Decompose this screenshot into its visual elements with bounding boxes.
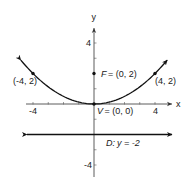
vertex-label: V= (0, 0) bbox=[97, 106, 133, 116]
focus-label-value: = (0, 2) bbox=[108, 69, 137, 79]
y-tick-label: 4 bbox=[86, 38, 91, 48]
vertex-label-value: = (0, 0) bbox=[105, 106, 134, 116]
directrix-label-letter: D: bbox=[106, 138, 115, 148]
y-axis-label: y bbox=[92, 12, 97, 22]
right-point-label: (4, 2) bbox=[155, 76, 176, 86]
focus-label: F= (0, 2) bbox=[101, 69, 137, 79]
x-tick-label: -4 bbox=[29, 106, 37, 116]
vertex-point bbox=[92, 102, 95, 105]
focus-point bbox=[92, 72, 95, 75]
directrix-label-value: y = -2 bbox=[116, 138, 140, 148]
x-tick-label: 4 bbox=[153, 106, 158, 116]
parabola-diagram: x y -4 4 4 -4 F= (0, 2) V= (0, 0) (-4, 2… bbox=[0, 0, 191, 181]
directrix-label: D:y = -2 bbox=[106, 138, 140, 148]
left-point-label: (-4, 2) bbox=[13, 76, 37, 86]
y-tick-label: -4 bbox=[84, 160, 92, 170]
vertex-label-letter: V bbox=[97, 106, 104, 116]
focus-label-letter: F bbox=[101, 69, 107, 79]
x-axis-label: x bbox=[176, 99, 181, 109]
